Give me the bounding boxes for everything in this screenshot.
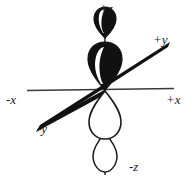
axis-label-plus-x: +x bbox=[166, 93, 181, 106]
orbital-diagram-figure: +z +y +x -x -y -z bbox=[0, 0, 195, 184]
axis-label-minus-y: -y bbox=[37, 122, 47, 135]
inner-upper-lobe bbox=[88, 42, 122, 90]
axis-label-minus-x: -x bbox=[6, 93, 16, 106]
axis-label-minus-z: -z bbox=[129, 160, 138, 173]
axis-label-plus-z: +z bbox=[99, 2, 113, 15]
axis-label-plus-y: +y bbox=[153, 33, 168, 46]
